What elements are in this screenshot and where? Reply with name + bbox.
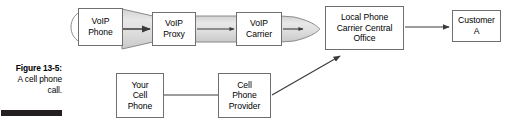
node-customer-a[interactable]: Customer A [452,10,501,42]
figure-caption-line-1: A cell phone [0,74,62,85]
figure-container: Figure 13-5: A cell phone call. [0,0,509,132]
figure-caption-line-2: call. [0,85,62,96]
pipe-segment-2 [195,16,237,42]
node-voip-proxy[interactable]: VoIP Proxy [152,12,196,46]
figure-caption-title: Figure 13-5: [0,63,62,74]
node-voip-carrier[interactable]: VoIP Carrier [236,12,282,46]
figure-caption-rule [1,110,62,116]
pipe-segment-1 [122,9,153,49]
node-cell-phone-provider[interactable]: Cell Phone Provider [218,73,271,118]
node-local-phone-carrier-central-office[interactable]: Local Phone Carrier Central Office [325,6,404,50]
cell-phone-provider-to-central-office-arrow [272,56,340,95]
node-your-cell-phone[interactable]: Your Cell Phone [116,73,164,118]
figure-caption: Figure 13-5: A cell phone call. [0,63,62,97]
pipe-segment-3 [281,16,320,42]
node-voip-phone[interactable]: VoIP Phone [78,8,123,46]
